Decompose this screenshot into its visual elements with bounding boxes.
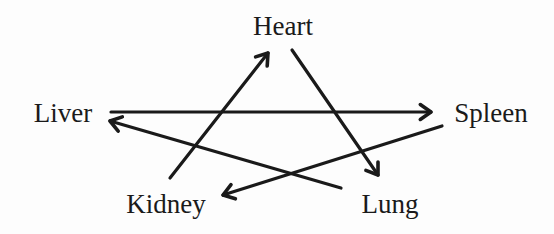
edge-line [170,53,268,178]
node-label-lung: Lung [362,189,419,219]
arrow-liver-to-spleen [111,105,431,120]
node-label-kidney: Kidney [126,189,206,219]
labels-layer: Heart Liver Spleen Kidney Lung [34,11,528,219]
node-label-spleen: Spleen [454,98,528,128]
node-label-heart: Heart [253,11,313,41]
organ-flow-diagram: Heart Liver Spleen Kidney Lung [0,0,554,234]
node-label-liver: Liver [34,98,92,128]
edges-layer [110,50,442,199]
arrow-kidney-to-heart [170,53,268,178]
arrow-lung-to-liver [110,117,341,188]
edge-line [110,121,341,188]
